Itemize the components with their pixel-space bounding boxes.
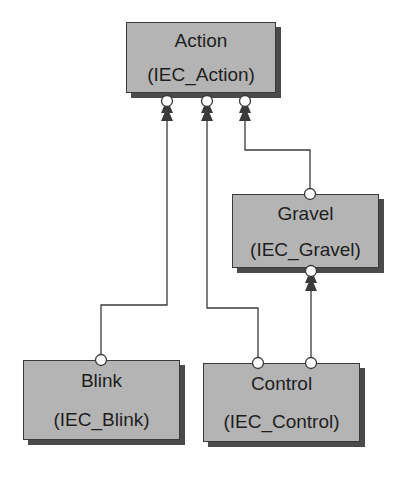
port-icon <box>305 189 316 200</box>
port-icon <box>96 355 107 366</box>
port-icon <box>240 96 251 107</box>
port-icon <box>306 358 317 369</box>
port-icon <box>306 266 317 277</box>
port-layer <box>0 0 416 478</box>
port-icon <box>202 96 213 107</box>
port-icon <box>253 358 264 369</box>
port-icon <box>162 96 173 107</box>
